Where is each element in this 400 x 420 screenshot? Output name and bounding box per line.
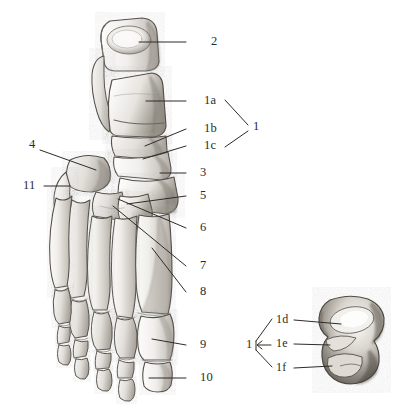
label-5: 5 [200,189,206,202]
label-8: 8 [200,285,206,298]
label-group-1-main: 1 [253,120,259,133]
label-1f: 1f [276,361,286,373]
label-1e: 1e [276,337,288,349]
label-10: 10 [200,371,213,384]
label-2: 2 [211,35,217,48]
figure-canvas: 2 1a 1b 1c 3 5 6 7 8 9 10 4 11 1 1d 1e 1… [0,0,400,420]
talus-inset-bone [319,296,384,384]
label-11: 11 [23,179,35,192]
label-1b: 1b [204,122,217,135]
label-1a: 1a [204,94,216,107]
label-1c: 1c [204,139,216,152]
metatarsal-2 [111,216,137,318]
metatarsal-3 [88,216,113,310]
talus [108,73,166,137]
calcaneus [101,18,159,71]
label-3: 3 [200,166,206,179]
metatarsal-5 [50,196,72,288]
label-1d: 1d [276,313,288,325]
label-7: 7 [200,259,206,272]
foot-skeleton-illustration [0,0,400,420]
label-group-1-inset: 1 [246,338,252,351]
medial-cuneiform [66,155,110,192]
label-9: 9 [200,338,206,351]
label-6: 6 [200,221,206,234]
label-4: 4 [29,138,35,151]
